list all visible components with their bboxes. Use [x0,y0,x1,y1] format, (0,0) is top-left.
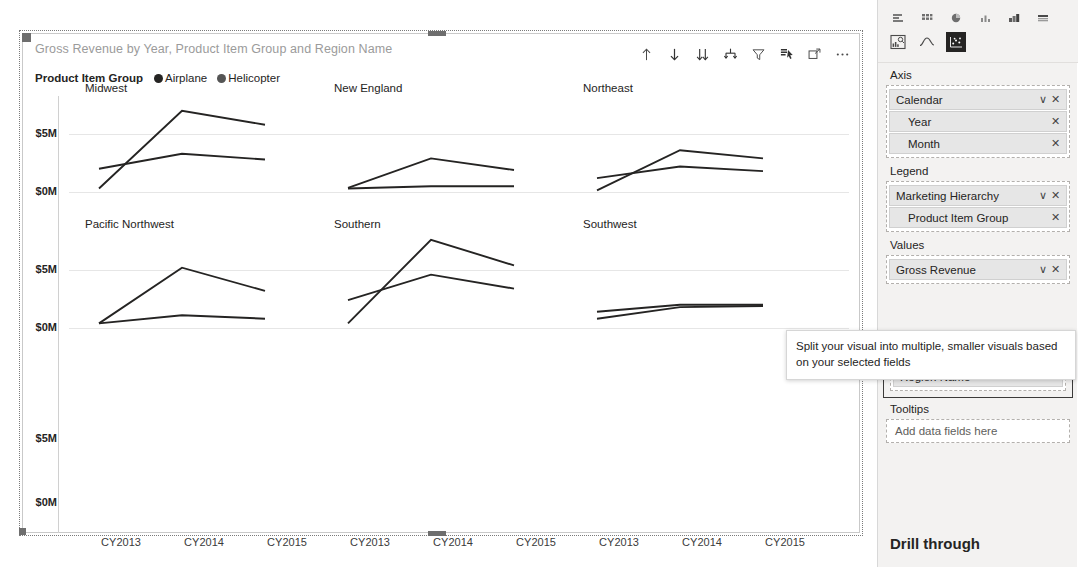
panel-title-new-england: New England [334,82,402,94]
field-wells: Axis Calendar ∨ ✕ Year ✕ Month ✕ Legend [878,62,1078,443]
drill-down-icon[interactable] [666,46,683,63]
series-line-helicopter [597,167,763,179]
panel-lines-pacific-northwest [85,232,271,348]
panel-title-southern: Southern [334,218,381,230]
expand-all-down-icon[interactable] [722,46,739,63]
field-chip-gross-revenue[interactable]: Gross Revenue ∨ ✕ [889,259,1067,280]
field-chip-label: Calendar [896,94,1035,106]
visualization-type-gallery[interactable] [878,0,1078,63]
series-line-helicopter [597,306,763,319]
remove-field-icon[interactable]: ✕ [1051,116,1060,127]
axis-well-label: Axis [878,62,1078,85]
x-tick-col2-cy2013: CY2013 [335,536,405,548]
panel-lines-northeast [583,96,769,212]
field-chip-month[interactable]: Month ✕ [889,133,1067,154]
field-chip-label: Product Item Group [908,212,1047,224]
y-tick-row1-0m: $0M [11,185,57,197]
y-tick-row1-5m: $5M [11,127,57,139]
pie-chart-icon[interactable] [946,8,966,28]
values-well-label: Values [878,232,1078,255]
panel-title-midwest: Midwest [85,82,127,94]
more-options-icon[interactable] [834,46,851,63]
scatter-chart-icon[interactable] [946,32,966,52]
series-line-airplane [348,158,514,188]
legend-swatch-helicopter [217,74,226,83]
visual-legend: Product Item Group Airplane Helicopter [35,72,290,84]
series-line-helicopter [348,275,514,301]
legend-label-airplane: Airplane [165,72,207,84]
remove-field-icon[interactable]: ✕ [1051,138,1060,149]
values-well[interactable]: Gross Revenue ∨ ✕ [886,255,1070,284]
tooltips-well-label: Tooltips [878,398,1078,419]
remove-field-icon[interactable]: ✕ [1051,94,1060,105]
field-chip-calendar[interactable]: Calendar ∨ ✕ [889,89,1067,110]
panel-title-southwest: Southwest [583,218,637,230]
x-tick-col2-cy2014: CY2014 [418,536,488,548]
x-tick-col1-cy2015: CY2015 [252,536,322,548]
small-multiples-tooltip: Split your visual into multiple, smaller… [786,330,1076,380]
visual-title: Gross Revenue by Year, Product Item Grou… [35,42,392,56]
remove-field-icon[interactable]: ✕ [1051,264,1060,275]
field-chip-label: Month [908,138,1047,150]
legend-label-helicopter: Helicopter [228,72,280,84]
x-tick-col3-cy2013: CY2013 [584,536,654,548]
x-tick-col3-cy2015: CY2015 [750,536,820,548]
field-chip-product-item-group[interactable]: Product Item Group ✕ [889,207,1067,228]
field-chip-label: Marketing Hierarchy [896,190,1035,202]
legend-well-label: Legend [878,158,1078,181]
legend-well[interactable]: Marketing Hierarchy ∨ ✕ Product Item Gro… [886,181,1070,232]
key-influencers-icon[interactable] [888,32,908,52]
series-line-airplane [348,240,514,324]
chevron-down-icon[interactable]: ∨ [1039,264,1047,275]
panel-title-northeast: Northeast [583,82,633,94]
y-tick-row2-5m: $5M [11,263,57,275]
legend-swatch-airplane [154,74,163,83]
remove-field-icon[interactable]: ✕ [1051,190,1060,201]
series-line-helicopter [99,154,265,169]
visual-header-toolbar[interactable] [638,46,851,63]
legend-item-airplane[interactable]: Airplane [154,72,207,84]
chevron-down-icon[interactable]: ∨ [1039,190,1047,201]
selection-handle-bottom-left[interactable] [19,528,26,535]
panel-lines-new-england [334,96,520,212]
drill-up-icon[interactable] [638,46,655,63]
field-chip-label: Year [908,116,1047,128]
focus-mode-icon[interactable] [806,46,823,63]
x-tick-col2-cy2015: CY2015 [501,536,571,548]
axis-well[interactable]: Calendar ∨ ✕ Year ✕ Month ✕ [886,85,1070,158]
panel-lines-southwest [583,232,769,348]
panel-lines-midwest [85,96,271,212]
y-tick-row3-0m: $0M [11,496,57,508]
small-multiples-line-visual[interactable]: Gross Revenue by Year, Product Item Grou… [22,33,860,533]
line-chart-icon[interactable] [917,32,937,52]
ribbon-chart-icon[interactable] [1004,8,1024,28]
panel-title-pacific-northwest: Pacific Northwest [85,218,174,230]
series-line-airplane [99,111,265,189]
filter-icon[interactable] [750,46,767,63]
matrix-icon[interactable] [1033,8,1053,28]
field-chip-label: Gross Revenue [896,264,1035,276]
x-tick-col1-cy2014: CY2014 [169,536,239,548]
expand-next-level-icon[interactable] [694,46,711,63]
column-chart-icon[interactable] [975,8,995,28]
selection-handle-top-center[interactable] [428,31,446,36]
selection-handle-top-left[interactable] [22,33,31,42]
y-axis-line [58,96,59,533]
remove-field-icon[interactable]: ✕ [1051,212,1060,223]
drill-mode-icon[interactable] [778,46,795,63]
chevron-down-icon[interactable]: ∨ [1039,94,1047,105]
tooltips-well[interactable]: Add data fields here [886,419,1070,443]
x-tick-col1-cy2013: CY2013 [86,536,156,548]
field-chip-year[interactable]: Year ✕ [889,111,1067,132]
series-line-helicopter [348,186,514,188]
legend-item-helicopter[interactable]: Helicopter [217,72,280,84]
plot-area: $5M $0M Midwest New England Northeast $5… [23,96,861,533]
stacked-bar-chart-icon[interactable] [888,8,908,28]
y-tick-row2-0m: $0M [11,321,57,333]
field-chip-marketing-hierarchy[interactable]: Marketing Hierarchy ∨ ✕ [889,185,1067,206]
selection-handle-bottom-center[interactable] [428,531,446,536]
visualizations-pane: Axis Calendar ∨ ✕ Year ✕ Month ✕ Legend [877,0,1077,567]
x-tick-col3-cy2014: CY2014 [667,536,737,548]
clustered-column-chart-icon[interactable] [917,8,937,28]
y-tick-row3-5m: $5M [11,432,57,444]
